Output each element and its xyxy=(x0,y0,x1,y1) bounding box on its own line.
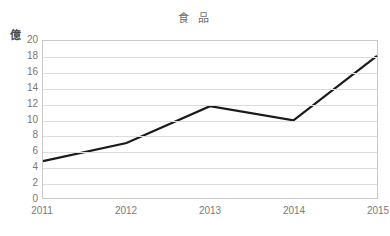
y-tick-label: 18 xyxy=(2,51,38,61)
chart-figure: 食 品 億 20181614121086420 2011201220132014… xyxy=(0,0,390,236)
chart-title: 食 品 xyxy=(0,9,390,25)
y-tick-label: 14 xyxy=(2,83,38,93)
plot-area xyxy=(42,40,378,199)
y-tick-label: 8 xyxy=(2,130,38,140)
gridline xyxy=(43,105,377,106)
gridline xyxy=(43,73,377,74)
y-tick-label: 0 xyxy=(2,194,38,204)
x-tick-label: 2013 xyxy=(180,205,240,217)
y-axis-tick-labels: 20181614121086420 xyxy=(0,40,38,199)
gridline xyxy=(43,121,377,122)
x-tick-label: 2014 xyxy=(264,205,324,217)
series-polyline xyxy=(43,56,377,161)
gridline xyxy=(43,89,377,90)
y-tick-label: 6 xyxy=(2,146,38,156)
gridline xyxy=(43,57,377,58)
gridline xyxy=(43,152,377,153)
y-tick-label: 20 xyxy=(2,35,38,45)
gridline xyxy=(43,136,377,137)
line-series xyxy=(43,41,377,198)
y-tick-label: 4 xyxy=(2,162,38,172)
x-tick-label: 2015 xyxy=(348,205,390,217)
gridline xyxy=(43,168,377,169)
y-tick-label: 16 xyxy=(2,67,38,77)
gridline xyxy=(43,184,377,185)
y-tick-label: 12 xyxy=(2,99,38,109)
x-tick-label: 2011 xyxy=(12,205,72,217)
x-tick-label: 2012 xyxy=(96,205,156,217)
y-tick-label: 10 xyxy=(2,115,38,125)
y-tick-label: 2 xyxy=(2,178,38,188)
x-axis-tick-labels: 20112012201320142015 xyxy=(42,205,378,221)
